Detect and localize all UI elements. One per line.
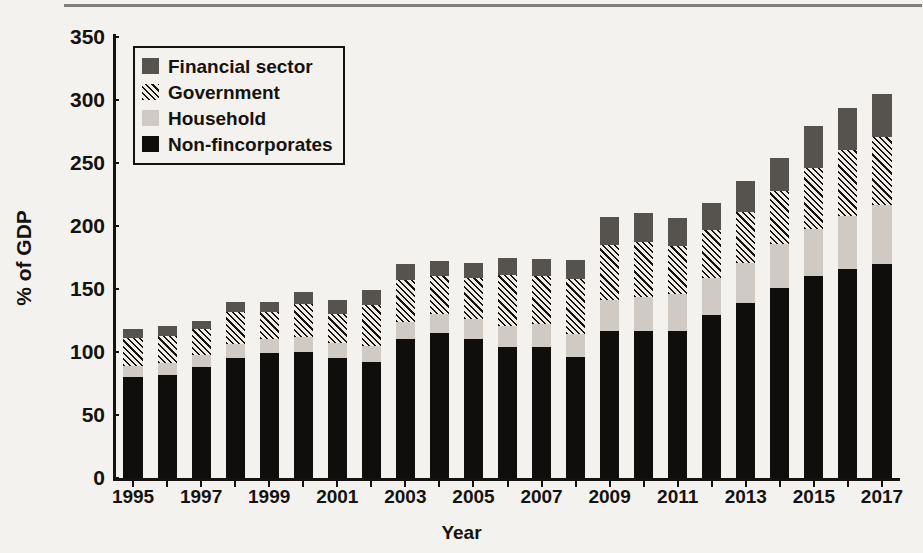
segment-government (600, 245, 619, 300)
segment-government (396, 280, 415, 322)
segment-non-fin-corporates (294, 352, 313, 478)
bar-2016 (838, 108, 857, 478)
legend-swatch-icon (142, 84, 159, 100)
bar-2000 (294, 292, 313, 478)
segment-government (532, 276, 551, 324)
segment-financial-sector (600, 217, 619, 245)
segment-financial-sector (192, 321, 211, 330)
segment-household (736, 263, 755, 303)
x-axis-tick-label: 2015 (793, 486, 835, 508)
segment-financial-sector (736, 181, 755, 213)
y-axis-title: % of GDP (12, 198, 36, 318)
segment-financial-sector (566, 260, 585, 279)
legend-item-label: Financial sector (168, 57, 313, 76)
x-axis-tick-label: 1999 (248, 486, 290, 508)
segment-financial-sector (464, 263, 483, 278)
legend-item[interactable]: Government (142, 79, 336, 105)
x-axis-tick-mark (575, 481, 577, 487)
segment-financial-sector (260, 302, 279, 312)
x-axis-tick-mark (643, 481, 645, 487)
segment-non-fin-corporates (600, 331, 619, 478)
segment-government (566, 279, 585, 334)
x-axis-tick-mark (507, 481, 509, 487)
legend-item[interactable]: Non-fincorporates (142, 131, 336, 157)
segment-financial-sector (430, 261, 449, 276)
segment-financial-sector (362, 290, 381, 305)
y-axis-tick-mark (113, 477, 119, 479)
stacked-bar-chart: 050100150200250300350 199519971999200120… (0, 0, 923, 553)
bar-1997 (192, 321, 211, 479)
segment-financial-sector (532, 259, 551, 277)
x-axis-tick-label: 2009 (588, 486, 630, 508)
segment-household (634, 297, 653, 331)
y-axis-tick-label: 350 (70, 25, 105, 49)
segment-financial-sector (158, 326, 177, 336)
x-axis-tick-label: 2007 (520, 486, 562, 508)
segment-household (192, 355, 211, 368)
segment-household (600, 300, 619, 330)
segment-government (362, 305, 381, 345)
segment-financial-sector (498, 258, 517, 276)
segment-financial-sector (123, 329, 142, 338)
segment-government (123, 338, 142, 366)
y-axis-tick-label: 250 (70, 151, 105, 175)
segment-non-fin-corporates (770, 288, 789, 478)
segment-government (328, 314, 347, 343)
segment-financial-sector (804, 126, 823, 168)
segment-non-fin-corporates (192, 367, 211, 478)
segment-non-fin-corporates (362, 362, 381, 478)
segment-government (192, 329, 211, 354)
segment-financial-sector (226, 302, 245, 312)
x-axis-tick-label: 2005 (452, 486, 494, 508)
bar-1995 (123, 329, 142, 478)
x-axis-tick-mark (234, 481, 236, 487)
segment-financial-sector (634, 213, 653, 242)
bar-2003 (396, 264, 415, 478)
legend-item-label: Household (168, 109, 266, 128)
segment-household (838, 216, 857, 269)
segment-non-fin-corporates (123, 377, 142, 478)
segment-government (260, 312, 279, 340)
segment-financial-sector (294, 292, 313, 305)
legend-item[interactable]: Household (142, 105, 336, 131)
segment-household (430, 314, 449, 333)
segment-household (158, 363, 177, 374)
segment-financial-sector (396, 264, 415, 280)
bar-2004 (430, 261, 449, 478)
segment-non-fin-corporates (566, 357, 585, 478)
segment-financial-sector (770, 158, 789, 191)
x-axis-tick-mark (302, 481, 304, 487)
segment-financial-sector (668, 218, 687, 246)
segment-non-fin-corporates (328, 358, 347, 478)
y-axis-tick-label: 0 (93, 466, 105, 490)
legend-item-label: Government (168, 83, 280, 102)
segment-non-fin-corporates (532, 347, 551, 478)
bar-2006 (498, 258, 517, 479)
y-axis-tick-label: 50 (82, 403, 105, 427)
segment-household (294, 337, 313, 352)
segment-government (736, 212, 755, 262)
x-axis-tick-label: 1995 (112, 486, 154, 508)
segment-household (498, 326, 517, 347)
legend-item-label: Non-fincorporates (168, 135, 333, 154)
segment-non-fin-corporates (736, 303, 755, 478)
segment-financial-sector (838, 108, 857, 151)
bar-2002 (362, 290, 381, 478)
segment-non-fin-corporates (430, 333, 449, 478)
bar-2015 (804, 126, 823, 478)
segment-household (770, 244, 789, 288)
segment-household (872, 205, 891, 264)
segment-government (770, 191, 789, 244)
y-axis-tick-label: 150 (70, 277, 105, 301)
x-axis-tick-mark (711, 481, 713, 487)
segment-household (464, 319, 483, 339)
bar-2014 (770, 158, 789, 478)
x-axis-tick-label: 2017 (861, 486, 903, 508)
segment-household (566, 334, 585, 357)
y-axis-tick-mark (113, 99, 119, 101)
segment-non-fin-corporates (838, 269, 857, 478)
segment-household (702, 278, 721, 316)
segment-non-fin-corporates (804, 276, 823, 478)
legend-item[interactable]: Financial sector (142, 53, 336, 79)
y-axis-tick-mark (113, 36, 119, 38)
